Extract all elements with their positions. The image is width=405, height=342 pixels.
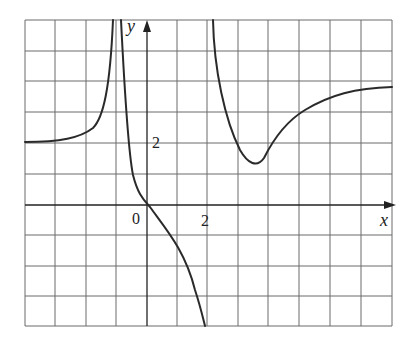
y-axis-arrow-icon xyxy=(143,20,151,32)
function-graph: y x 0 2 2 xyxy=(0,0,405,342)
curves xyxy=(25,20,392,326)
labels: y x 0 2 2 xyxy=(125,16,388,230)
x-tick-label: 2 xyxy=(201,212,209,229)
x-axis-arrow-icon xyxy=(384,201,396,209)
axes xyxy=(25,20,396,326)
right-branch xyxy=(213,20,392,164)
x-axis-label: x xyxy=(379,210,388,230)
y-tick-label: 2 xyxy=(152,134,160,151)
grid xyxy=(25,20,392,326)
y-axis-label: y xyxy=(125,16,135,36)
origin-label: 0 xyxy=(132,210,140,227)
middle-branch xyxy=(121,20,205,326)
